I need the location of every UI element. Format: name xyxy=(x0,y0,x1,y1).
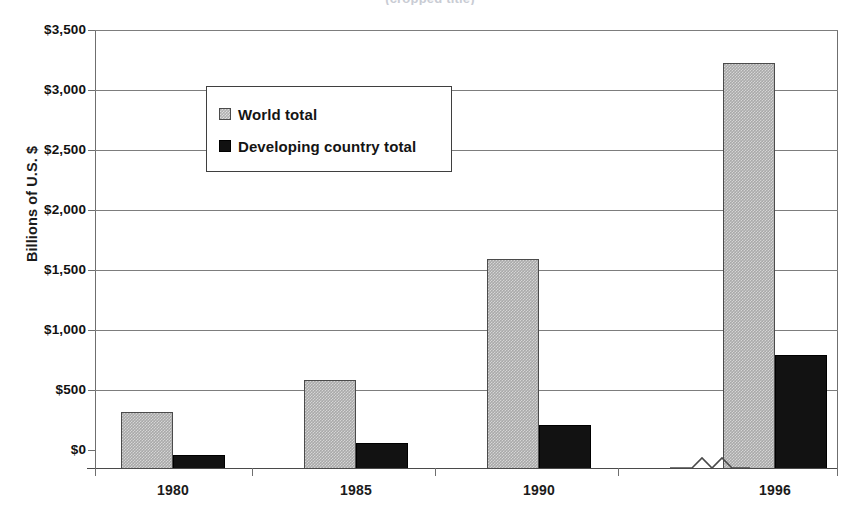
legend-label-developing-country-total: Developing country total xyxy=(238,138,416,155)
gridline xyxy=(95,30,838,31)
x-axis-label-1990: 1990 xyxy=(479,482,599,498)
x-axis-label-1996: 1996 xyxy=(715,482,835,498)
y-axis-tick-mark xyxy=(88,150,95,151)
y-axis-tick-label: $500 xyxy=(0,382,86,397)
y-axis-tick-mark xyxy=(88,390,95,391)
x-axis-label-1980: 1980 xyxy=(113,482,233,498)
bar-world-1996 xyxy=(723,63,775,469)
bar-developing-1985 xyxy=(356,443,408,469)
x-axis-tick-mark xyxy=(95,468,96,476)
plot-left-border xyxy=(95,30,96,468)
bar-developing-1996 xyxy=(775,355,827,469)
x-axis-tick-mark xyxy=(618,468,619,476)
y-axis-tick-mark xyxy=(88,450,95,451)
bar-developing-1980 xyxy=(173,455,225,469)
y-axis-tick-mark xyxy=(88,270,95,271)
y-axis-tick-label: $1,500 xyxy=(0,262,86,277)
chart-legend: World total Developing country total xyxy=(206,86,452,172)
y-axis-tick-mark xyxy=(88,330,95,331)
y-axis-tick-mark xyxy=(88,30,95,31)
legend-item-world-total: World total xyxy=(219,98,441,130)
x-axis-tick-mark xyxy=(837,468,838,476)
y-axis-tick-label: $1,000 xyxy=(0,322,86,337)
y-axis-tick-label: $3,000 xyxy=(0,82,86,97)
x-axis-label-1985: 1985 xyxy=(296,482,416,498)
axis-break-zigzag-icon xyxy=(670,451,750,475)
cropped-chart-title: (cropped title) xyxy=(160,0,700,5)
y-axis-tick-label: $0 xyxy=(0,442,86,457)
x-axis-tick-mark xyxy=(252,468,253,476)
bar-world-1985 xyxy=(304,380,356,469)
y-axis-tick-mark xyxy=(88,210,95,211)
y-axis-tick-label: $2,500 xyxy=(0,142,86,157)
legend-swatch-world-total-icon xyxy=(219,108,231,120)
bar-world-1990 xyxy=(487,259,539,469)
legend-item-developing-country-total: Developing country total xyxy=(219,130,441,162)
bar-world-1980 xyxy=(121,412,173,469)
bar-chart-figure: (cropped title) Billions of U.S. $ $3,50… xyxy=(0,0,849,515)
plot-right-border xyxy=(837,30,838,468)
x-axis-tick-mark xyxy=(435,468,436,476)
legend-swatch-developing-country-total-icon xyxy=(219,140,231,152)
legend-label-world-total: World total xyxy=(238,106,317,123)
y-axis-tick-label: $2,000 xyxy=(0,202,86,217)
y-axis-tick-mark xyxy=(88,90,95,91)
y-axis-tick-label: $3,500 xyxy=(0,22,86,37)
bar-developing-1990 xyxy=(539,425,591,469)
